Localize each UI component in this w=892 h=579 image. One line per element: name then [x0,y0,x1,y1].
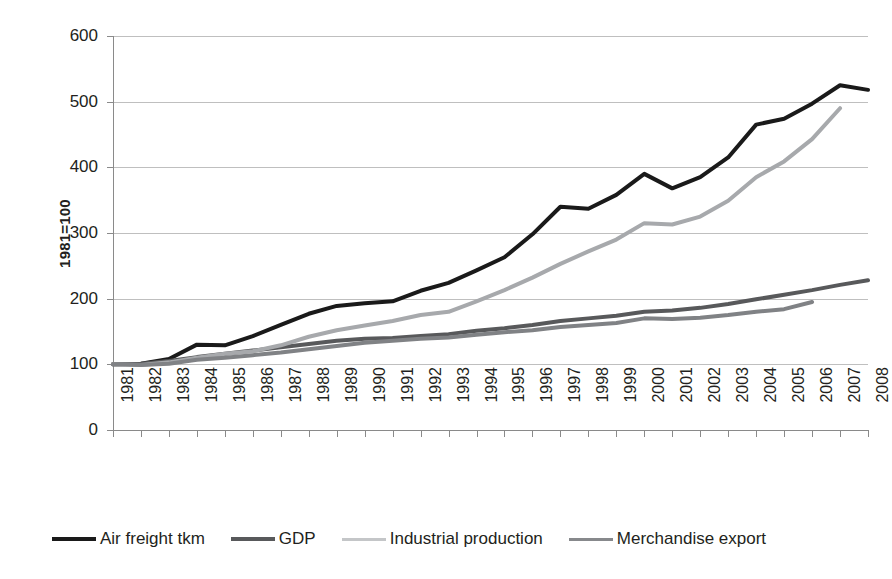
y-axis-ticks [107,37,113,431]
legend-item[interactable]: Air freight tkm [52,529,205,549]
legend-color-swatch [342,538,386,541]
legend-item[interactable]: Industrial production [342,529,543,549]
x-axis-ticks [114,430,869,437]
legend-label: GDP [279,529,316,549]
series-line-industrial-production [113,108,840,365]
series-lines [113,85,868,365]
legend-color-swatch [569,538,613,541]
legend-label: Air freight tkm [100,529,205,549]
legend-item[interactable]: Merchandise export [569,529,766,549]
axis-lines [113,36,868,436]
legend-item[interactable]: GDP [231,529,316,549]
legend-color-swatch [231,537,275,541]
legend-label: Industrial production [390,529,543,549]
legend-label: Merchandise export [617,529,766,549]
gridlines [113,37,868,431]
legend-color-swatch [52,537,96,541]
series-line-air-freight-tkm [113,85,868,364]
chart-legend: Air freight tkmGDPIndustrial productionM… [52,524,842,554]
